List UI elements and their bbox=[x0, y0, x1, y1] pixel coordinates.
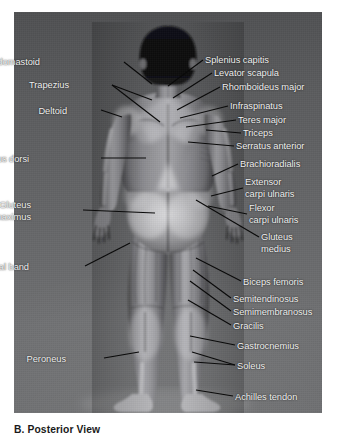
label-rhomboideus-major: Rhomboideus major bbox=[222, 82, 304, 94]
label-extensor-carpi-ulnaris: Extensor carpi ulnaris bbox=[245, 177, 294, 200]
label-trapezius: Trapezius bbox=[29, 80, 69, 92]
label-semitendinosus: Semitendinosus bbox=[233, 294, 298, 306]
label-achilles-tendon: Achilles tendon bbox=[235, 392, 297, 404]
label-flexor-carpi-ulnaris: Flexor carpi ulnaris bbox=[249, 203, 298, 226]
label-semimembranosus: Semimembranosus bbox=[233, 307, 312, 319]
label-triceps: Triceps bbox=[243, 128, 273, 140]
label-serratus-anterior: Serratus anterior bbox=[236, 141, 304, 153]
label-brachioradialis: Brachioradialis bbox=[240, 159, 300, 171]
figure-caption: B. Posterior View bbox=[14, 424, 100, 435]
label-biceps-femoris: Biceps femoris bbox=[243, 277, 303, 289]
label-sternocleidomastoid: Sternocleidomastoid bbox=[0, 57, 40, 69]
label-gluteus-medius: Gluteus medius bbox=[261, 232, 293, 255]
body-edge-shading bbox=[92, 22, 244, 413]
label-gracilis: Gracilis bbox=[233, 321, 264, 333]
anatomy-figure-plate: SternocleidomastoidTrapeziusDeltoidLatis… bbox=[0, 0, 337, 447]
label-iliotibial-band: Iliotibial band bbox=[0, 262, 29, 274]
label-deltoid: Deltoid bbox=[38, 106, 67, 118]
label-latissimus-dorsi: Latissimus dorsi bbox=[0, 154, 29, 166]
label-levator-scapula: Levator scapula bbox=[214, 68, 279, 80]
label-peroneus: Peroneus bbox=[27, 354, 66, 366]
label-soleus: Soleus bbox=[237, 361, 265, 373]
label-teres-major: Teres major bbox=[238, 115, 286, 127]
label-gastrocnemius: Gastrocnemius bbox=[237, 341, 299, 353]
label-splenius-capitis: Splenius capitis bbox=[205, 55, 269, 67]
label-infraspinatus: Infraspinatus bbox=[230, 101, 283, 113]
label-gluteus-maximus: Gluteus maximus bbox=[0, 200, 31, 223]
